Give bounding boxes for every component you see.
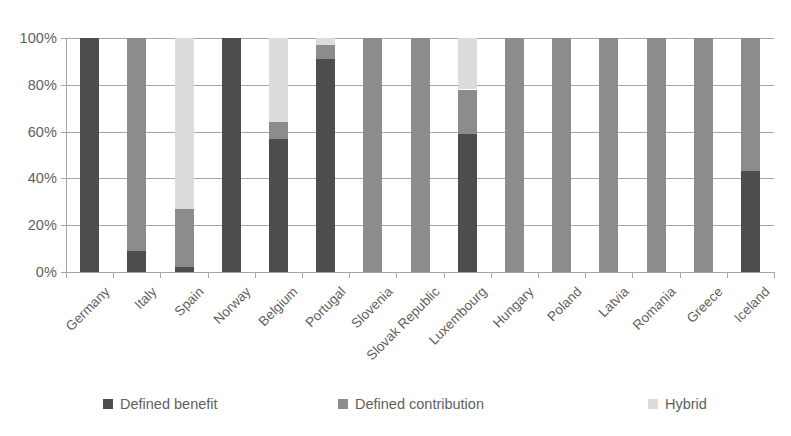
bar-segment[interactable]	[127, 38, 146, 251]
chart-legend: Defined benefitDefined contributionHybri…	[0, 396, 791, 420]
legend-label: Hybrid	[665, 396, 707, 412]
x-axis-label-iceland: Iceland	[732, 284, 773, 325]
stacked-bar[interactable]	[175, 38, 194, 272]
bar-slot	[458, 38, 477, 272]
legend-swatch-icon	[338, 399, 348, 409]
legend-swatch-icon	[103, 399, 113, 409]
bar-segment[interactable]	[175, 38, 194, 209]
bar-segment[interactable]	[127, 251, 146, 272]
bar-segment[interactable]	[316, 38, 335, 45]
y-axis-tick-label: 80%	[28, 77, 57, 93]
bar-segment[interactable]	[316, 45, 335, 59]
chart-container: 100%80%60%40%20%0% GermanyItalySpainNorw…	[0, 0, 791, 436]
bar-segment[interactable]	[741, 171, 760, 272]
bar-slot	[647, 38, 666, 272]
chart-title	[0, 0, 791, 2]
x-tick-mark	[774, 272, 775, 278]
bar-segment[interactable]	[80, 38, 99, 272]
bar-segment[interactable]	[694, 38, 713, 272]
bar-slot	[316, 38, 335, 272]
x-axis-label-hungary: Hungary	[490, 284, 537, 331]
bar-slot	[80, 38, 99, 272]
x-axis-label-portugal: Portugal	[302, 284, 348, 330]
stacked-bar[interactable]	[127, 38, 146, 272]
stacked-bar[interactable]	[741, 38, 760, 272]
x-axis-label-italy: Italy	[131, 284, 159, 312]
x-axis-label-romania: Romania	[630, 284, 679, 333]
bar-segment[interactable]	[599, 38, 618, 272]
bar-segment[interactable]	[316, 59, 335, 272]
legend-item[interactable]: Hybrid	[648, 396, 707, 412]
x-axis-label-poland: Poland	[544, 284, 584, 324]
bar-segment[interactable]	[458, 134, 477, 272]
x-axis-label-norway: Norway	[211, 284, 254, 327]
bar-segment[interactable]	[269, 122, 288, 138]
x-axis-label-spain: Spain	[172, 284, 207, 319]
bar-slot	[411, 38, 430, 272]
stacked-bar[interactable]	[505, 38, 524, 272]
stacked-bar[interactable]	[222, 38, 241, 272]
bar-slot	[175, 38, 194, 272]
bar-slot	[505, 38, 524, 272]
legend-label: Defined contribution	[355, 396, 484, 412]
bar-segment[interactable]	[552, 38, 571, 272]
x-axis-label-belgium: Belgium	[256, 284, 301, 329]
bar-segment[interactable]	[363, 38, 382, 272]
bar-slot	[269, 38, 288, 272]
stacked-bar[interactable]	[694, 38, 713, 272]
bar-segment[interactable]	[269, 139, 288, 272]
legend-label: Defined benefit	[120, 396, 218, 412]
y-axis-tick-label: 60%	[28, 124, 57, 140]
y-axis-tick-label: 20%	[28, 217, 57, 233]
bar-slot	[363, 38, 382, 272]
legend-item[interactable]: Defined contribution	[338, 396, 484, 412]
plot-area: 100%80%60%40%20%0%	[66, 38, 774, 272]
bar-segment[interactable]	[222, 38, 241, 272]
bar-slot	[741, 38, 760, 272]
stacked-bar[interactable]	[363, 38, 382, 272]
stacked-bar[interactable]	[647, 38, 666, 272]
x-axis-label-slovenia: Slovenia	[348, 284, 395, 331]
stacked-bar[interactable]	[458, 38, 477, 272]
x-axis-label-greece: Greece	[684, 284, 726, 326]
bar-segment[interactable]	[175, 209, 194, 268]
bar-segment[interactable]	[741, 38, 760, 171]
bar-segment[interactable]	[647, 38, 666, 272]
x-axis-category-labels: GermanyItalySpainNorwayBelgiumPortugalSl…	[66, 272, 774, 372]
bar-slot	[552, 38, 571, 272]
bars-layer	[66, 38, 774, 272]
x-axis-label-latvia: Latvia	[595, 284, 631, 320]
bar-segment[interactable]	[505, 38, 524, 272]
stacked-bar[interactable]	[269, 38, 288, 272]
y-axis-tick-label: 100%	[20, 30, 58, 46]
stacked-bar[interactable]	[599, 38, 618, 272]
bar-segment[interactable]	[458, 38, 477, 89]
bar-segment[interactable]	[411, 38, 430, 272]
y-axis-tick-label: 40%	[28, 170, 57, 186]
bar-slot	[599, 38, 618, 272]
bar-slot	[694, 38, 713, 272]
x-axis-label-germany: Germany	[62, 284, 112, 334]
stacked-bar[interactable]	[80, 38, 99, 272]
legend-swatch-icon	[648, 399, 658, 409]
bar-segment[interactable]	[269, 38, 288, 122]
bar-slot	[222, 38, 241, 272]
y-axis-tick-label: 0%	[36, 264, 57, 280]
stacked-bar[interactable]	[316, 38, 335, 272]
legend-item[interactable]: Defined benefit	[103, 396, 218, 412]
stacked-bar[interactable]	[552, 38, 571, 272]
bar-segment[interactable]	[458, 90, 477, 134]
bar-slot	[127, 38, 146, 272]
stacked-bar[interactable]	[411, 38, 430, 272]
